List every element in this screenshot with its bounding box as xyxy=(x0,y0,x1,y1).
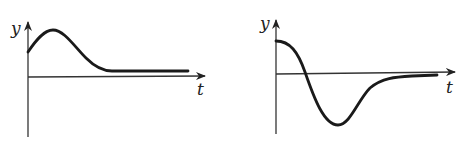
right-graph: y t xyxy=(259,13,455,134)
diagram-canvas: y t y t xyxy=(0,0,466,145)
response-curve xyxy=(28,30,188,71)
t-axis xyxy=(276,72,455,74)
t-axis-label: t xyxy=(197,79,204,99)
t-axis xyxy=(28,76,205,77)
t-axis-label: t xyxy=(446,77,453,97)
left-graph: y t xyxy=(10,18,205,137)
y-axis-label: y xyxy=(10,18,21,38)
y-axis-label: y xyxy=(259,13,270,33)
response-curve xyxy=(276,41,437,125)
